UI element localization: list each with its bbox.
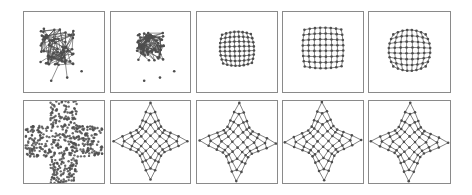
- panel-b3: [196, 100, 278, 184]
- warped-grid-graph-icon: [283, 12, 363, 92]
- cross-graph-icon: [24, 101, 104, 183]
- panel-t3: [196, 11, 278, 93]
- astroid-graph-icon: [197, 101, 277, 183]
- warped-grid-graph-icon: [197, 12, 277, 92]
- astroid-graph-icon: [283, 101, 363, 183]
- astroid-graph-icon: [111, 101, 190, 183]
- panel-b5: [368, 100, 451, 184]
- warped-grid-graph-icon: [369, 12, 450, 92]
- panel-b4: [282, 100, 364, 184]
- panel-t1: [23, 11, 105, 93]
- astroid-graph-icon: [369, 101, 450, 183]
- tangle-graph-icon: [111, 12, 190, 92]
- panel-b2: [110, 100, 191, 184]
- panel-b1: [23, 100, 105, 184]
- tangle-graph-icon: [24, 12, 104, 92]
- panel-t2: [110, 11, 191, 93]
- panel-t5: [368, 11, 451, 93]
- panel-t4: [282, 11, 364, 93]
